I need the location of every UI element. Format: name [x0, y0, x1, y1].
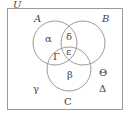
universe-label: U — [13, 0, 22, 10]
region-beta: β — [67, 69, 73, 80]
set-b-circle — [61, 21, 105, 65]
set-b-label: B — [101, 13, 109, 24]
venn-diagram: U A B C α δ ε Γ β Θ γ Δ — [0, 0, 125, 115]
region-delta: δ — [66, 31, 72, 42]
region-epsilon: ε — [66, 46, 71, 57]
set-c-label: C — [64, 96, 72, 107]
set-a-label: A — [33, 13, 41, 24]
region-gamma-lower: γ — [33, 83, 39, 94]
region-alpha: α — [45, 33, 52, 44]
region-gamma-upper: Γ — [53, 51, 60, 62]
region-delta-upper: Δ — [99, 83, 106, 94]
region-theta: Θ — [99, 67, 107, 78]
